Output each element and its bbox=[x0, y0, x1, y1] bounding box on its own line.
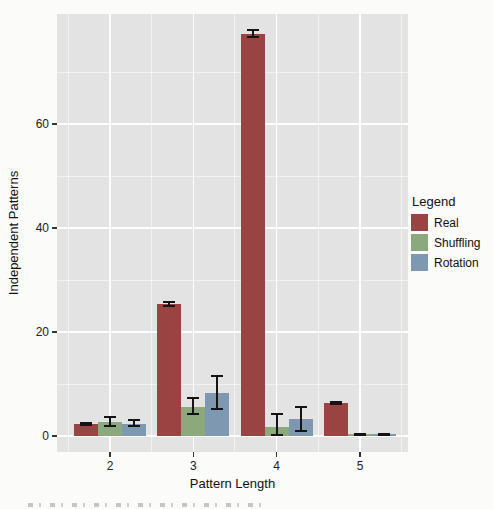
legend-entry-rotation: Rotation bbox=[411, 254, 491, 271]
legend-label-real: Real bbox=[434, 216, 459, 230]
legend-label-rotation: Rotation bbox=[434, 256, 479, 270]
error-cap-bottom bbox=[187, 413, 199, 415]
gridline-major-vertical bbox=[359, 14, 361, 452]
x-tick-label: 3 bbox=[181, 459, 205, 473]
legend-label-shuffling: Shuffling bbox=[434, 236, 480, 250]
error-cap-bottom bbox=[163, 305, 175, 307]
y-tick-label: 0 bbox=[19, 429, 49, 443]
error-cap-top bbox=[295, 406, 307, 408]
x-axis-tick bbox=[276, 452, 278, 457]
error-cap-top bbox=[211, 375, 223, 377]
y-axis-tick bbox=[52, 435, 57, 437]
gridline-major-vertical bbox=[109, 14, 111, 452]
error-cap-bottom bbox=[104, 425, 116, 427]
error-cap-top bbox=[128, 419, 140, 421]
error-cap-top bbox=[163, 301, 175, 303]
error-cap-top bbox=[187, 397, 199, 399]
error-cap-bottom bbox=[378, 434, 390, 436]
legend-title: Legend bbox=[412, 194, 491, 209]
error-bar-shuffling-4 bbox=[276, 414, 278, 435]
legend-entry-real: Real bbox=[411, 214, 491, 231]
error-cap-bottom bbox=[211, 408, 223, 410]
x-axis-title: Pattern Length bbox=[132, 476, 333, 491]
error-bar-shuffling-3 bbox=[192, 398, 194, 415]
legend-swatch-rotation bbox=[411, 254, 428, 271]
x-tick-label: 4 bbox=[265, 459, 289, 473]
x-axis-tick bbox=[359, 452, 361, 457]
error-cap-top bbox=[271, 413, 283, 415]
error-cap-bottom bbox=[354, 434, 366, 436]
y-axis-tick bbox=[52, 123, 57, 125]
y-tick-label: 20 bbox=[19, 325, 49, 339]
x-axis-tick bbox=[193, 452, 195, 457]
y-tick-label: 40 bbox=[19, 221, 49, 235]
gridline-minor-vertical bbox=[234, 14, 235, 452]
figure: Independent Patterns Pattern Length Lege… bbox=[0, 0, 493, 509]
bar-real-3 bbox=[157, 304, 181, 436]
error-cap-top bbox=[247, 29, 259, 31]
plot-panel bbox=[57, 14, 408, 452]
gridline-major-vertical bbox=[193, 14, 195, 452]
legend-entries: RealShufflingRotation bbox=[411, 214, 491, 271]
gridline-minor-vertical bbox=[151, 14, 152, 452]
gridline-major-vertical bbox=[276, 14, 278, 452]
error-cap-top bbox=[104, 416, 116, 418]
legend-swatch-real bbox=[411, 214, 428, 231]
legend-entry-shuffling: Shuffling bbox=[411, 234, 491, 251]
error-cap-bottom bbox=[247, 36, 259, 38]
error-bar-rotation-4 bbox=[300, 407, 302, 431]
error-bar-rotation-3 bbox=[216, 376, 218, 409]
error-cap-bottom bbox=[80, 424, 92, 426]
y-axis-tick bbox=[52, 331, 57, 333]
legend: Legend RealShufflingRotation bbox=[411, 194, 491, 274]
y-axis-tick bbox=[52, 227, 57, 229]
error-cap-bottom bbox=[128, 425, 140, 427]
legend-swatch-shuffling bbox=[411, 234, 428, 251]
x-tick-label: 5 bbox=[348, 459, 372, 473]
bar-real-4 bbox=[241, 34, 265, 436]
error-cap-bottom bbox=[330, 403, 342, 405]
x-tick-label: 2 bbox=[98, 459, 122, 473]
error-cap-bottom bbox=[271, 434, 283, 436]
x-axis-tick bbox=[109, 452, 111, 457]
clipped-caption-text bbox=[28, 503, 263, 507]
gridline-minor-vertical bbox=[68, 14, 69, 452]
bar-real-2 bbox=[74, 424, 98, 436]
error-cap-bottom bbox=[295, 430, 307, 432]
y-tick-label: 60 bbox=[19, 117, 49, 131]
gridline-minor-vertical bbox=[318, 14, 319, 452]
gridline-minor-vertical bbox=[401, 14, 402, 452]
bar-real-5 bbox=[324, 403, 348, 436]
